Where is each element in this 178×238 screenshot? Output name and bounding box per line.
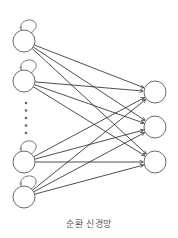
connection-edges bbox=[32, 45, 146, 194]
diagram-caption: 순환 신경망 bbox=[0, 217, 178, 230]
rnn-diagram bbox=[0, 0, 178, 238]
ellipsis-dot bbox=[25, 102, 28, 105]
edge-arrow bbox=[32, 48, 146, 153]
neuron-node bbox=[144, 151, 166, 173]
edge-arrow bbox=[33, 87, 144, 156]
ellipsis-dots bbox=[25, 102, 28, 135]
edge-arrow bbox=[34, 85, 143, 123]
edge-arrow bbox=[34, 98, 145, 157]
neuron-node bbox=[144, 81, 166, 103]
edge-arrow bbox=[33, 47, 145, 120]
ellipsis-dot bbox=[25, 132, 28, 135]
edge-arrow bbox=[33, 100, 146, 191]
ellipsis-dot bbox=[25, 117, 28, 120]
neuron-node bbox=[13, 151, 35, 173]
neuron-node bbox=[13, 186, 35, 208]
edge-arrow bbox=[35, 165, 144, 194]
neuron-node bbox=[13, 30, 35, 52]
neuron-node bbox=[144, 116, 166, 138]
neuron-node bbox=[13, 70, 35, 92]
ellipsis-dot bbox=[25, 124, 28, 127]
ellipsis-dot bbox=[25, 109, 28, 112]
edge-arrow bbox=[34, 45, 144, 88]
